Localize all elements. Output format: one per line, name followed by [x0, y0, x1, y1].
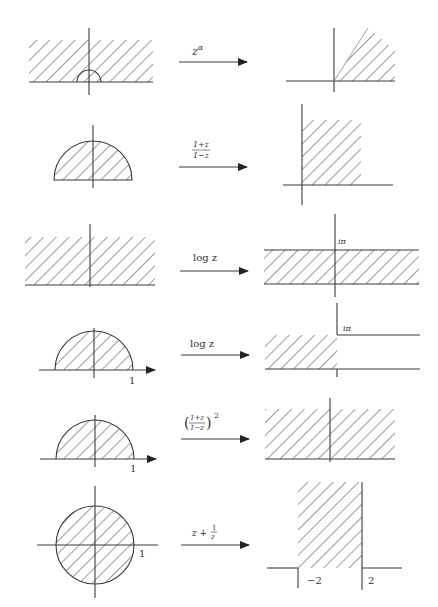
svg-text:log z: log z — [193, 252, 217, 263]
map-arrow-log-1: log z — [180, 252, 248, 271]
svg-text:z: z — [210, 533, 215, 541]
source-half-disk — [54, 125, 132, 188]
svg-text:1: 1 — [139, 548, 145, 559]
svg-text:(: ( — [184, 415, 189, 431]
target-wedge — [286, 28, 395, 92]
svg-text:): ) — [206, 415, 211, 431]
target-first-quadrant — [283, 104, 393, 205]
row-power-map: zα — [29, 28, 395, 95]
map-arrow-mobius-squared: ( 1+z 1−z ) 2 — [181, 411, 249, 439]
svg-text:log z: log z — [190, 338, 214, 349]
map-arrow-log-2: log z — [181, 338, 249, 355]
source-half-disk-3: 1 — [40, 415, 156, 474]
svg-text:1: 1 — [212, 524, 216, 532]
source-unit-disk: 1 — [37, 486, 158, 598]
svg-text:2: 2 — [214, 411, 219, 420]
map-arrow-mobius: 1+z 1−z — [179, 140, 247, 167]
svg-text:iπ: iπ — [338, 237, 347, 246]
row-log-halfplane: log z iπ — [25, 214, 419, 297]
svg-text:1+z: 1+z — [193, 140, 210, 149]
svg-text:1+z: 1+z — [190, 414, 204, 422]
map-arrow-joukowski: z + 1 z — [181, 524, 249, 545]
source-upper-halfplane-2 — [25, 224, 155, 287]
svg-text:1: 1 — [130, 463, 136, 474]
source-half-disk-2: 1 — [39, 328, 155, 386]
map-arrow-power: zα — [179, 43, 247, 62]
target-horizontal-strip: iπ — [264, 214, 419, 297]
svg-text:iπ: iπ — [343, 324, 352, 333]
row-mobius-map: 1+z 1−z — [54, 104, 393, 205]
target-half-strip: iπ — [265, 303, 420, 377]
svg-text:1−z: 1−z — [190, 424, 204, 432]
svg-text:z +: z + — [191, 528, 207, 538]
svg-text:1−z: 1−z — [193, 151, 210, 160]
source-upper-halfplane — [29, 28, 153, 95]
svg-text:1: 1 — [129, 375, 135, 386]
target-vertical-strip: −2 2 — [267, 482, 402, 590]
row-log-halfdisk: 1 log z iπ — [39, 303, 420, 386]
target-upper-halfplane — [265, 398, 395, 462]
row-mobius-squared: 1 ( 1+z 1−z ) 2 — [40, 398, 395, 474]
svg-text:2: 2 — [368, 575, 374, 586]
svg-text:−2: −2 — [307, 575, 322, 586]
map-label-power: zα — [191, 43, 204, 58]
conformal-map-diagram: zα 1+z 1−z — [0, 0, 438, 607]
row-joukowski: 1 z + 1 z −2 2 — [37, 482, 402, 598]
